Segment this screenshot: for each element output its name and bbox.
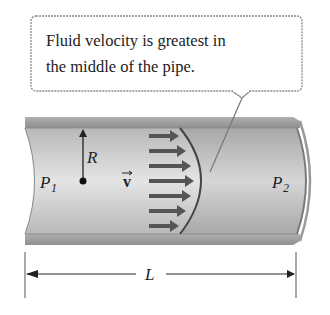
pipe-flow-diagram: Fluid velocity is greatest in the middle… — [0, 0, 330, 315]
pipe-top-wall — [25, 117, 300, 128]
svg-text:2: 2 — [283, 181, 289, 195]
callout-line-1: Fluid velocity is greatest in — [46, 31, 226, 50]
callout: Fluid velocity is greatest in the middle… — [31, 16, 302, 98]
svg-text:1: 1 — [51, 181, 57, 195]
callout-line-2: the middle of the pipe. — [46, 57, 195, 76]
length-label: L — [144, 265, 154, 284]
svg-text:P: P — [39, 173, 50, 192]
svg-text:P: P — [271, 173, 282, 192]
velocity-label: v — [122, 171, 132, 190]
center-point — [80, 178, 87, 185]
radius-label: R — [86, 148, 98, 167]
length-dimension: L — [25, 252, 296, 298]
pipe-bottom-wall — [25, 234, 300, 245]
svg-text:v: v — [123, 173, 131, 190]
